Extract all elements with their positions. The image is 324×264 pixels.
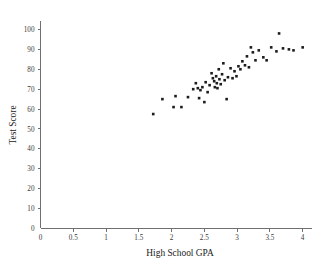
- data-point: [216, 87, 219, 90]
- y-axis-title: Test Score: [8, 105, 18, 144]
- data-point: [252, 51, 255, 54]
- data-point: [239, 68, 242, 71]
- data-point: [204, 81, 207, 84]
- y-tick-label: 40: [27, 145, 35, 153]
- data-point: [233, 70, 236, 73]
- data-point: [219, 83, 222, 86]
- x-axis-title: High School GPA: [146, 248, 214, 258]
- data-point: [212, 77, 215, 80]
- data-points-layer: [152, 32, 304, 115]
- data-point: [270, 46, 273, 49]
- y-tick-label: 60: [27, 106, 35, 114]
- data-point: [217, 68, 220, 71]
- data-point: [248, 66, 251, 69]
- y-tick-group: 0102030405060708090100: [24, 26, 41, 233]
- x-tick-label: 3: [235, 234, 239, 242]
- data-point: [223, 79, 226, 82]
- data-point: [225, 98, 228, 101]
- y-tick-label: 80: [27, 66, 35, 74]
- y-tick-label: 0: [31, 225, 35, 233]
- data-point: [262, 56, 265, 59]
- data-point: [206, 91, 209, 94]
- data-point: [161, 98, 164, 101]
- data-point: [213, 80, 216, 83]
- data-point: [201, 86, 204, 89]
- data-point: [208, 84, 211, 87]
- y-tick-label: 90: [27, 46, 35, 54]
- data-point: [174, 95, 177, 98]
- x-tick-label: 4: [301, 234, 305, 242]
- x-axis: 00.511.522.533.54: [39, 229, 312, 242]
- x-tick-group: 00.511.522.533.54: [39, 229, 305, 242]
- x-tick-label: 1: [104, 234, 108, 242]
- y-tick-label: 30: [27, 165, 35, 173]
- data-point: [214, 86, 217, 89]
- x-tick-label: 0: [39, 234, 43, 242]
- data-point: [246, 55, 249, 58]
- data-point: [172, 106, 175, 109]
- data-point: [244, 64, 247, 67]
- data-point: [198, 97, 201, 100]
- x-tick-label: 0.5: [69, 234, 78, 242]
- data-point: [275, 50, 278, 53]
- y-tick-label: 10: [27, 205, 35, 213]
- data-point: [180, 106, 183, 109]
- data-point: [218, 78, 221, 81]
- data-point: [187, 96, 190, 99]
- x-tick-label: 1.5: [134, 234, 143, 242]
- data-point: [197, 87, 200, 90]
- y-tick-label: 20: [27, 185, 35, 193]
- data-point: [254, 59, 257, 62]
- data-point: [229, 67, 232, 70]
- data-point: [227, 76, 230, 79]
- data-point: [195, 82, 198, 85]
- data-point: [250, 46, 253, 49]
- data-point: [216, 82, 219, 85]
- data-point: [210, 72, 213, 75]
- data-point: [199, 89, 202, 92]
- data-point: [235, 75, 238, 78]
- data-point: [301, 46, 304, 49]
- data-point: [292, 49, 295, 52]
- data-point: [257, 49, 260, 52]
- data-point: [237, 65, 240, 68]
- x-tick-label: 2: [170, 234, 174, 242]
- data-point: [282, 47, 285, 50]
- data-point: [265, 59, 268, 62]
- data-point: [241, 60, 244, 63]
- x-tick-label: 2.5: [200, 234, 209, 242]
- data-point: [203, 101, 206, 104]
- data-point: [221, 73, 224, 76]
- x-tick-label: 3.5: [265, 234, 274, 242]
- y-tick-label: 70: [27, 86, 35, 94]
- data-point: [215, 75, 218, 78]
- data-point: [192, 88, 195, 91]
- data-point: [288, 48, 291, 51]
- y-tick-label: 100: [24, 26, 35, 34]
- y-tick-label: 50: [27, 126, 35, 134]
- data-point: [231, 77, 234, 80]
- y-axis: 0102030405060708090100: [24, 21, 41, 233]
- plot-canvas: 0102030405060708090100 00.511.522.533.54…: [0, 0, 324, 264]
- scatter-chart: 0102030405060708090100 00.511.522.533.54…: [0, 0, 324, 264]
- data-point: [222, 62, 225, 65]
- data-point: [278, 32, 281, 35]
- data-point: [152, 113, 155, 116]
